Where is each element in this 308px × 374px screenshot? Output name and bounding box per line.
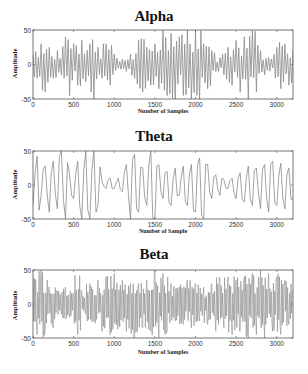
svg-text:2500: 2500 (229, 340, 244, 347)
svg-text:1000: 1000 (107, 101, 122, 108)
svg-text:3000: 3000 (270, 340, 285, 347)
svg-text:0: 0 (31, 340, 35, 347)
svg-text:0: 0 (27, 61, 31, 68)
svg-text:0: 0 (31, 101, 35, 108)
svg-text:1000: 1000 (107, 221, 122, 228)
theta-ylabel: Amplitude (11, 165, 18, 205)
svg-text:2000: 2000 (188, 101, 203, 108)
svg-text:-50: -50 (22, 335, 32, 342)
theta-xlabel: Number of Sample (33, 228, 293, 234)
svg-text:-50: -50 (22, 216, 32, 223)
svg-text:2500: 2500 (229, 101, 244, 108)
svg-text:1500: 1500 (148, 221, 163, 228)
svg-text:50: 50 (24, 27, 32, 34)
svg-text:1000: 1000 (107, 340, 122, 347)
svg-text:50: 50 (24, 267, 32, 274)
svg-text:0: 0 (27, 301, 31, 308)
beta-panel: Beta 050010001500200025003000-50050 Ampl… (0, 240, 308, 362)
svg-text:0: 0 (27, 182, 31, 189)
alpha-panel: Alpha 050010001500200025003000-50050 Amp… (0, 0, 308, 120)
figure-caption-fragment (0, 362, 308, 374)
svg-text:2000: 2000 (188, 340, 203, 347)
svg-text:500: 500 (68, 340, 79, 347)
beta-ylabel: Amplitude (11, 286, 18, 326)
svg-text:1500: 1500 (148, 340, 163, 347)
alpha-plot: 050010001500200025003000-50050 (0, 0, 308, 120)
beta-xlabel: Number of Samples (33, 349, 293, 355)
svg-text:3000: 3000 (270, 101, 285, 108)
svg-text:500: 500 (68, 101, 79, 108)
alpha-ylabel: Amplitude (11, 44, 18, 84)
svg-text:50: 50 (24, 148, 32, 155)
svg-text:2500: 2500 (229, 221, 244, 228)
svg-text:500: 500 (68, 221, 79, 228)
svg-text:2000: 2000 (188, 221, 203, 228)
theta-panel: Theta 050010001500200025003000-50050 Amp… (0, 121, 308, 241)
svg-text:3000: 3000 (270, 221, 285, 228)
svg-text:-50: -50 (22, 96, 32, 103)
svg-text:1500: 1500 (148, 101, 163, 108)
alpha-xlabel: Number of Samples (33, 108, 293, 114)
beta-plot: 050010001500200025003000-50050 (0, 240, 308, 362)
theta-plot: 050010001500200025003000-50050 (0, 121, 308, 241)
svg-text:0: 0 (31, 221, 35, 228)
